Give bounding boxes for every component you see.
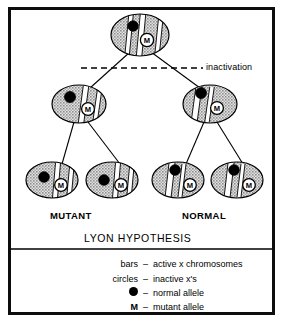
mutant-allele-marker: M	[187, 181, 193, 190]
cell-mutant-daughter-cell-1: M	[26, 162, 78, 198]
connector-mutant-parent-to-daughter-2	[88, 122, 120, 164]
normal-allele-dot	[99, 175, 110, 186]
cell-normal-parent-cell: M	[183, 85, 237, 123]
connector-precursor-to-mutant-parent	[90, 52, 130, 88]
legend-key-2: circles	[40, 274, 138, 284]
cell-lineage-tree: MMMMMMM	[26, 14, 263, 198]
cell-normal-daughter-cell-1: M	[152, 162, 204, 198]
cell-normal-daughter-cell-2: M	[211, 162, 263, 198]
legend-value-1: active x chromosomes	[153, 259, 243, 269]
legend-key-1: bars	[40, 259, 138, 269]
legend-row-3: –normal allele	[0, 286, 285, 299]
legend-dash-1: –	[140, 259, 151, 269]
letter-m-icon: M	[131, 302, 139, 312]
connector-normal-parent-to-daughter-1	[186, 122, 204, 164]
cell-precursor-cell: M	[111, 14, 169, 57]
cell-mutant-parent-cell: M	[52, 85, 106, 123]
normal-allele-dot	[196, 88, 207, 99]
normal-allele-dot	[229, 165, 240, 176]
legend-normal-allele-icon	[40, 287, 138, 298]
mutant-allele-marker: M	[85, 105, 91, 114]
legend-value-2: inactive x's	[153, 274, 197, 284]
legend-dash-4: –	[140, 302, 151, 312]
connector-mutant-parent-to-daughter-1	[62, 122, 74, 164]
group-label-mutant: MUTANT	[50, 210, 92, 221]
normal-allele-dot	[65, 92, 76, 103]
group-label-normal: NORMAL	[182, 210, 226, 221]
inactivation-label: inactivation	[206, 62, 252, 72]
mutant-allele-marker: M	[214, 104, 220, 113]
legend-row-4: M–mutant allele	[0, 300, 285, 313]
connector-precursor-to-normal-parent	[151, 52, 200, 88]
mutant-allele-marker: M	[144, 36, 150, 45]
legend-row-1: bars–active x chromosomes	[0, 257, 285, 270]
legend-row-2: circles–inactive x's	[0, 272, 285, 285]
mutant-allele-marker: M	[118, 181, 124, 190]
figure-title: LYON HYPOTHESIS	[84, 232, 191, 244]
mutant-allele-marker: M	[246, 181, 252, 190]
legend-value-3: normal allele	[153, 288, 204, 298]
lyon-hypothesis-figure: MMMMMMM MUTANT NORMAL inactivation LYON …	[0, 0, 285, 327]
legend-dash-3: –	[140, 288, 151, 298]
connector-normal-parent-to-daughter-2	[217, 122, 243, 164]
normal-allele-dot	[170, 165, 181, 176]
legend-value-4: mutant allele	[153, 302, 204, 312]
normal-allele-dot	[128, 21, 138, 31]
normal-allele-dot	[39, 172, 50, 183]
filled-circle-icon	[129, 287, 138, 296]
legend-mutant-allele-icon: M	[40, 302, 138, 312]
cell-mutant-daughter-cell-2: M	[86, 162, 138, 198]
legend-dash-2: –	[140, 274, 151, 284]
mutant-allele-marker: M	[58, 181, 64, 190]
